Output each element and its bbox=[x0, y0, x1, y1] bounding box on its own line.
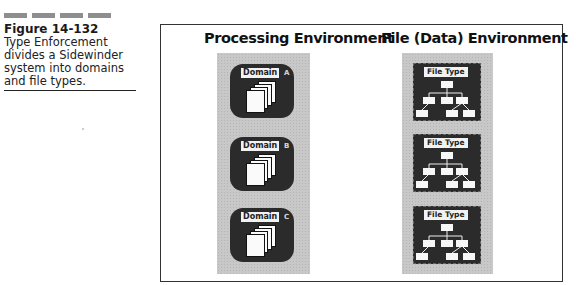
stacked-pages-icon bbox=[248, 154, 278, 186]
domain-suffix: A bbox=[284, 68, 289, 78]
speck bbox=[82, 128, 84, 130]
dash bbox=[32, 13, 55, 18]
domain-tile: Domain A bbox=[230, 64, 294, 118]
stacked-pages-icon bbox=[248, 81, 278, 113]
file-environment-title: File (Data) Environment bbox=[381, 30, 568, 46]
domain-tile: Domain B bbox=[230, 137, 294, 191]
domain-tile: Domain C bbox=[230, 208, 294, 262]
figure-caption: Figure 14-132 Type Enforcement divides a… bbox=[4, 13, 136, 91]
caption-underline bbox=[4, 90, 136, 91]
dash bbox=[88, 13, 111, 18]
domain-suffix: C bbox=[284, 212, 289, 222]
dash bbox=[60, 13, 83, 18]
dash bbox=[4, 13, 27, 18]
diagram-frame: Processing Environment File (Data) Envir… bbox=[160, 24, 563, 282]
domain-label: Domain bbox=[241, 141, 279, 151]
domain-label: Domain bbox=[241, 212, 279, 222]
domain-suffix: B bbox=[284, 141, 289, 151]
file-type-tile: File Type bbox=[413, 134, 481, 192]
hierarchy-tree-icon bbox=[414, 135, 482, 193]
hierarchy-tree-icon bbox=[414, 207, 482, 265]
domain-label: Domain bbox=[241, 68, 279, 78]
file-environment-panel: File Type bbox=[402, 53, 493, 274]
figure-number: Figure 14-132 bbox=[4, 22, 136, 36]
figure-description: Type Enforcement divides a Sidewinder sy… bbox=[4, 36, 136, 88]
processing-environment-title: Processing Environment bbox=[204, 30, 394, 46]
processing-environment-panel: Domain A Domain B Domain C bbox=[217, 53, 310, 274]
caption-dash-bar bbox=[4, 13, 136, 18]
file-type-tile: File Type bbox=[413, 63, 481, 121]
hierarchy-tree-icon bbox=[414, 64, 482, 122]
stacked-pages-icon bbox=[248, 225, 278, 257]
file-type-tile: File Type bbox=[413, 206, 481, 264]
